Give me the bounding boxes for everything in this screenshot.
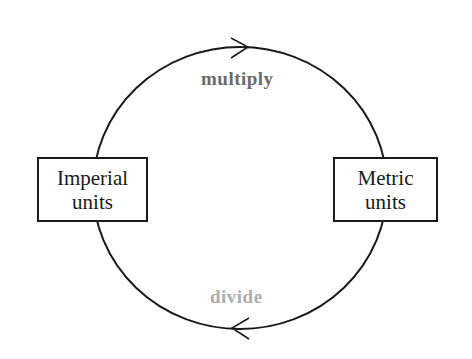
imperial-units-box: Imperial units [37, 157, 148, 222]
divide-label: divide [210, 286, 263, 308]
imperial-label-line2: units [72, 190, 113, 214]
metric-label-line1: Metric [358, 166, 414, 190]
metric-units-box: Metric units [333, 157, 438, 222]
multiply-label: multiply [201, 68, 274, 90]
metric-label-line2: units [365, 190, 406, 214]
imperial-label-line1: Imperial [57, 166, 128, 190]
